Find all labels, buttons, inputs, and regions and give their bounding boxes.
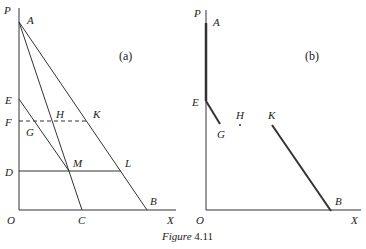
panel-a-labels: P A (a) E F G H K D M L O C B X (3, 4, 175, 226)
line-AC (19, 22, 82, 210)
panel-b-tag: (b) (305, 49, 319, 63)
label-F-a: F (4, 116, 12, 128)
label-H-a: H (55, 108, 65, 120)
label-C-a: C (78, 214, 86, 226)
label-B-b: B (335, 195, 342, 207)
label-A-a: A (26, 14, 34, 26)
label-K-b: K (267, 109, 276, 121)
label-E-a: E (4, 94, 12, 106)
label-H-b: H (235, 109, 245, 121)
panel-a-tag: (a) (119, 49, 132, 63)
panel-b (206, 10, 361, 211)
label-B-a: B (150, 195, 157, 207)
segment-EG-bold (206, 101, 220, 124)
figure-canvas: P A (a) E F G H K D M L O C B X P A (b) … (0, 0, 366, 249)
label-A-b: A (212, 16, 220, 28)
label-G-b: G (217, 128, 225, 140)
label-G-a: G (26, 126, 34, 138)
label-K-a: K (92, 108, 101, 120)
label-X-a: X (166, 214, 175, 226)
caption-prefix: Figure (161, 230, 192, 242)
label-E-b: E (191, 96, 199, 108)
point-H-b (239, 124, 241, 126)
label-O-b: O (196, 214, 204, 226)
label-P-b: P (193, 7, 201, 19)
figure-caption: Figure 4.11 (161, 230, 213, 242)
caption-number: 4.11 (194, 230, 213, 242)
label-X-b: X (350, 214, 359, 226)
label-O-a: O (7, 214, 15, 226)
label-M-a: M (72, 157, 83, 169)
label-P-a: P (3, 4, 11, 16)
segment-KB-bold (272, 125, 331, 211)
label-L-a: L (124, 157, 131, 169)
label-D-a: D (4, 166, 13, 178)
